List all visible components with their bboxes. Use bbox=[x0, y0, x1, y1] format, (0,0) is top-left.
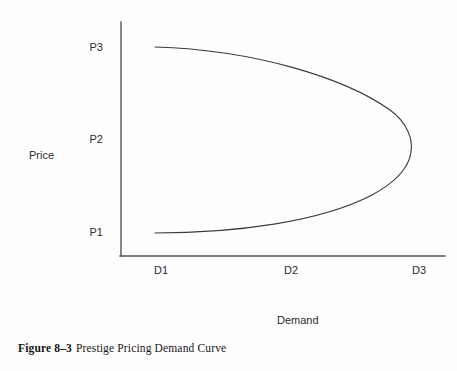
y-tick-label-p1: P1 bbox=[73, 226, 103, 238]
x-axis-title: Demand bbox=[277, 314, 319, 327]
x-tick-label-d1: D1 bbox=[146, 264, 176, 276]
y-tick-label-p2: P2 bbox=[73, 133, 103, 145]
x-tick-label-d2: D2 bbox=[276, 264, 306, 276]
x-tick-label-d3: D3 bbox=[404, 264, 434, 276]
y-tick-label-p3: P3 bbox=[73, 41, 103, 53]
figure-caption-text: Prestige Pricing Demand Curve bbox=[76, 342, 226, 354]
figure-caption-number: Figure 8–3 bbox=[18, 342, 72, 354]
figure-container: P3 P2 P1 D1 D2 D3 Price Demand Figure 8–… bbox=[0, 0, 457, 371]
demand-curve-chart bbox=[0, 0, 457, 300]
chart-plot-area: P3 P2 P1 D1 D2 D3 Price Demand bbox=[0, 0, 457, 300]
figure-caption: Figure 8–3Prestige Pricing Demand Curve bbox=[18, 341, 226, 355]
y-axis-title: Price bbox=[29, 149, 54, 162]
demand-curve-line bbox=[155, 47, 411, 233]
